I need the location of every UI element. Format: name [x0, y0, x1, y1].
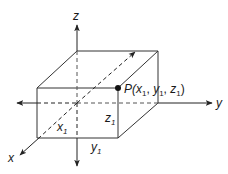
y-axis-label: y	[215, 96, 223, 110]
x-axis-positive	[20, 137, 40, 155]
point-label: P(x1, y1, z1)	[124, 82, 185, 98]
point-coord-z: z	[169, 82, 176, 96]
point-label-suffix: )	[181, 82, 185, 96]
z-axis-label: z	[72, 9, 79, 23]
coordinate-diagram: z y x P(x1, y1, z1) x1 y1 z1	[0, 0, 228, 174]
x1-label: x1	[56, 120, 67, 136]
point-p	[115, 85, 121, 91]
z1-label: z1	[104, 111, 115, 127]
top-left-depth-edge	[37, 51, 77, 88]
bottom-right-depth-edge	[118, 103, 158, 138]
y1-label: y1	[90, 140, 101, 156]
x-axis-label: x	[7, 151, 15, 165]
